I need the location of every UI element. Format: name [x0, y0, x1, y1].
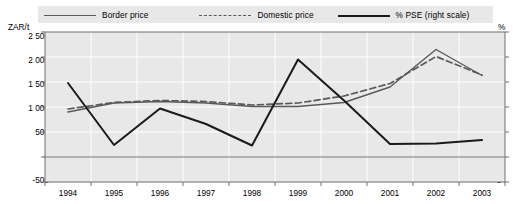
plot-area [0, 0, 515, 204]
chart-figure: Border price Domestic price % PSE (right… [0, 0, 515, 204]
